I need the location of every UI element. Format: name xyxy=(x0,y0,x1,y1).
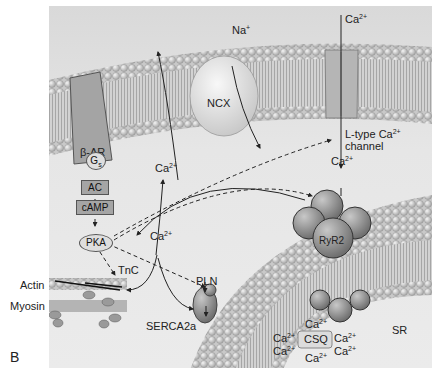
sr-ca-label: Ca2+ xyxy=(273,332,295,344)
myofilaments xyxy=(49,278,127,328)
diagram-graphics xyxy=(0,0,435,378)
camp-node: cAMP xyxy=(76,200,114,215)
channel-label: channel xyxy=(345,141,384,152)
sr-label: SR xyxy=(392,325,407,336)
pln-label: PLN xyxy=(196,276,217,287)
sr-ca-label: Ca2+ xyxy=(334,345,356,357)
ac-node: AC xyxy=(81,180,109,195)
na-label: Na+ xyxy=(232,24,250,36)
ca-cytosol-label: Ca2+ xyxy=(150,230,172,242)
myosin-label: Myosin xyxy=(10,301,45,312)
pka-node: PKA xyxy=(79,234,113,252)
sr-ca-label: Ca2+ xyxy=(273,345,295,357)
ca-ncx-label: Ca2+ xyxy=(155,162,177,174)
tnc-label: TnC xyxy=(118,265,139,276)
ryr2-label: RyR2 xyxy=(319,236,344,246)
sr-ca-label: Ca2+ xyxy=(334,332,356,344)
ncx-label: NCX xyxy=(207,98,230,109)
sr-ca-label: Ca2+ xyxy=(305,352,327,364)
l-type-label: L-type Ca2+ xyxy=(345,128,401,140)
gs-node: Gs xyxy=(86,152,106,170)
panel-label: B xyxy=(10,350,19,364)
ncx-exchanger xyxy=(190,56,258,136)
csq-label: CSQ xyxy=(304,334,328,345)
sr-ca-label: Ca2+ xyxy=(305,318,327,330)
ca-ltype-label: Ca2+ xyxy=(331,155,353,167)
ca-extracellular-label: Ca2+ xyxy=(345,13,367,25)
serca2a-label: SERCA2a xyxy=(146,321,196,332)
actin-label: Actin xyxy=(20,280,44,291)
